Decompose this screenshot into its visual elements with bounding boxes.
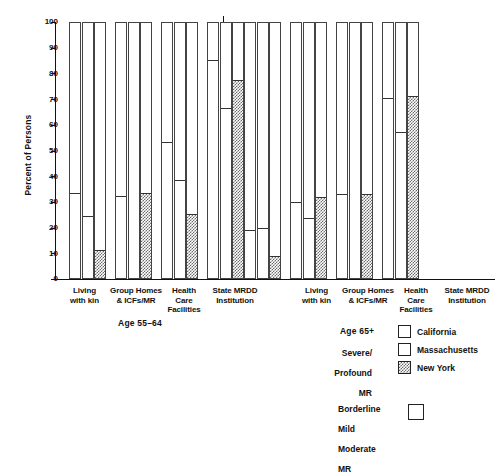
legend-item-new-york[interactable]: New York — [398, 361, 455, 374]
bar-age-65-health-care-facilities-california[interactable] — [336, 22, 348, 279]
bar-segment-severe-profound — [233, 80, 243, 278]
bar-segment-severe-profound — [337, 194, 347, 278]
bar-age-55-64-group-homes-icfs-mr-california[interactable] — [115, 22, 127, 279]
bar-age-55-64-living-with-kin-california[interactable] — [69, 22, 81, 279]
bar-age-65-living-with-kin-california[interactable] — [244, 22, 256, 279]
bar-age-65-group-homes-icfs-mr-new-york[interactable] — [315, 22, 327, 279]
bar-segment-severe-profound — [408, 96, 418, 278]
bar-segment-severe-profound — [95, 250, 105, 278]
bar-segment-severe-profound — [175, 180, 185, 278]
bar-age-55-64-health-care-facilities-new-york[interactable] — [186, 22, 198, 279]
bar-age-65-group-homes-icfs-mr-massachusetts[interactable] — [303, 22, 315, 279]
bar-age-65-living-with-kin-massachusetts[interactable] — [257, 22, 269, 279]
legend-label-new-york: New York — [417, 363, 455, 373]
bar-age-55-64-living-with-kin-new-york[interactable] — [94, 22, 106, 279]
legend-item-borderline-mild-moderate[interactable] — [408, 404, 424, 420]
x-label-line2: Institution — [202, 296, 268, 306]
legend-swatch-borderline-icon — [408, 404, 424, 420]
bar-age-55-64-state-mrdd-institution-new-york[interactable] — [232, 22, 244, 279]
bar-segment-severe-profound — [83, 216, 93, 278]
panel-label-age-55-64: Age 55–64 — [100, 318, 180, 328]
x-label-right-state-mrdd: State MRDD Institution — [434, 286, 500, 305]
legend-caption-line3: Moderate — [338, 444, 404, 454]
panel-label-age-65-plus: Age 65+ — [340, 326, 400, 336]
legend-caption-line2: Profound — [312, 368, 372, 378]
bar-age-55-64-health-care-facilities-california[interactable] — [161, 22, 173, 279]
legend-caption-line2: Mild — [338, 424, 404, 434]
bar-segment-severe-profound — [258, 228, 268, 278]
bar-age-65-state-mrdd-institution-new-york[interactable] — [407, 22, 419, 279]
legend-swatch-california-icon — [398, 325, 411, 338]
bar-age-55-64-state-mrdd-institution-massachusetts[interactable] — [220, 22, 232, 279]
bar-segment-severe-profound — [304, 218, 314, 278]
bar-segment-severe-profound — [270, 256, 280, 278]
x-label-line3: Facilities — [390, 305, 442, 315]
bar-segment-severe-profound — [316, 197, 326, 278]
legend-item-california[interactable]: California — [398, 325, 456, 338]
legend-swatch-massachusetts-icon — [398, 343, 411, 356]
bar-segment-severe-profound — [383, 98, 393, 278]
x-label-line1: State MRDD — [434, 286, 500, 296]
bar-segment-severe-profound — [396, 132, 406, 278]
bar-segment-severe-profound — [245, 230, 255, 278]
bar-segment-severe-profound — [141, 193, 151, 278]
x-label-line2: Institution — [434, 296, 500, 306]
bar-age-55-64-health-care-facilities-massachusetts[interactable] — [174, 22, 186, 279]
bar-age-65-state-mrdd-institution-california[interactable] — [382, 22, 394, 279]
bar-segment-severe-profound — [221, 108, 231, 278]
bar-age-65-group-homes-icfs-mr-california[interactable] — [290, 22, 302, 279]
plot-area — [55, 22, 495, 279]
legend-caption-line1: Severe/ — [312, 348, 372, 358]
bar-age-55-64-state-mrdd-institution-california[interactable] — [207, 22, 219, 279]
x-label-line1: State MRDD — [202, 286, 268, 296]
bar-age-65-health-care-facilities-massachusetts[interactable] — [349, 22, 361, 279]
bar-age-55-64-group-homes-icfs-mr-massachusetts[interactable] — [128, 22, 140, 279]
x-axis-line — [55, 279, 495, 280]
bar-age-65-health-care-facilities-new-york[interactable] — [361, 22, 373, 279]
bar-segment-severe-profound — [162, 142, 172, 278]
legend-caption-borderline-mild-moderate: Borderline Mild Moderate MR — [338, 394, 404, 476]
bar-age-55-64-group-homes-icfs-mr-new-york[interactable] — [140, 22, 152, 279]
legend-swatch-new-york-icon — [398, 361, 411, 374]
x-label-left-state-mrdd: State MRDD Institution — [202, 286, 268, 305]
bar-segment-severe-profound — [70, 193, 80, 278]
bar-age-65-state-mrdd-institution-massachusetts[interactable] — [395, 22, 407, 279]
legend-item-massachusetts[interactable]: Massachusetts — [398, 343, 478, 356]
legend-label-california: California — [417, 327, 456, 337]
legend-label-massachusetts: Massachusetts — [417, 345, 478, 355]
bar-segment-severe-profound — [362, 194, 372, 278]
legend-caption-line4: MR — [338, 464, 404, 474]
bar-age-65-living-with-kin-new-york[interactable] — [269, 22, 281, 279]
x-label-line3: Facilities — [158, 305, 210, 315]
bar-age-55-64-living-with-kin-massachusetts[interactable] — [82, 22, 94, 279]
y-axis: 100 90 80 70 60 50 40 30 20 10 0 — [0, 0, 58, 425]
bar-segment-severe-profound — [187, 214, 197, 278]
bar-segment-severe-profound — [116, 196, 126, 278]
bar-segment-severe-profound — [291, 202, 301, 278]
bar-segment-severe-profound — [208, 60, 218, 278]
legend-caption-line1: Borderline — [338, 404, 404, 414]
